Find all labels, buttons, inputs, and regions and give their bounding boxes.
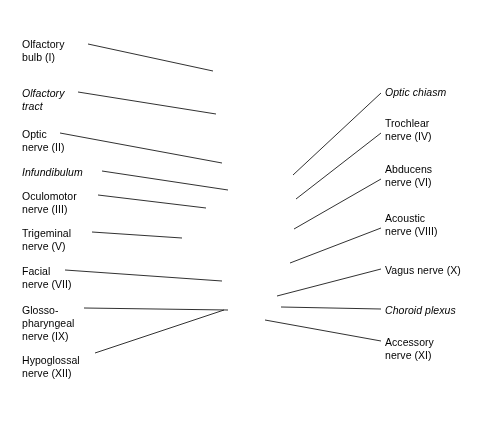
label-olfactory-tract: Olfactory tract (22, 87, 64, 113)
label-infundibulum: Infundibulum (22, 166, 83, 179)
label-acoustic-nerve: Acoustic nerve (VIII) (385, 212, 438, 238)
label-hypoglossal-nerve: Hypoglossal nerve (XII) (22, 354, 80, 380)
label-choroid-plexus: Choroid plexus (385, 304, 456, 317)
label-facial-nerve: Facial nerve (VII) (22, 265, 72, 291)
label-glossopharyngeal: Glosso- pharyngeal nerve (IX) (22, 304, 74, 344)
label-optic-nerve: Optic nerve (II) (22, 128, 65, 154)
label-accessory-nerve: Accessory nerve (XI) (385, 336, 434, 362)
cranial-nerves-figure: Olfactory bulb (I)Olfactory tractOptic n… (0, 0, 481, 424)
label-trigeminal-nerve: Trigeminal nerve (V) (22, 227, 71, 253)
label-optic-chiasm: Optic chiasm (385, 86, 446, 99)
label-abducens-nerve: Abducens nerve (VI) (385, 163, 432, 189)
label-vagus-nerve: Vagus nerve (X) (385, 264, 461, 277)
label-olfactory-bulb: Olfactory bulb (I) (22, 38, 64, 64)
label-trochlear-nerve: Trochlear nerve (IV) (385, 117, 432, 143)
label-oculomotor-nerve: Oculomotor nerve (III) (22, 190, 77, 216)
